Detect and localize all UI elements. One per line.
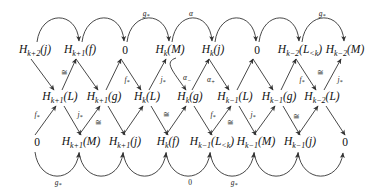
node-argument: (L) <box>326 90 340 102</box>
node-argument: (L) <box>146 90 160 102</box>
node-argument: (g) <box>283 90 296 102</box>
node-top-2: Hk+1(f) <box>64 44 96 58</box>
down-diagonal-arrow <box>194 106 212 135</box>
node-argument: (f) <box>85 43 96 55</box>
node-subscript: k+1 <box>51 96 64 105</box>
diagonal_labels-label: j* <box>337 76 342 85</box>
node-subscript: k−1 <box>226 96 239 105</box>
bottom-arc-arrow <box>298 152 343 176</box>
node-argument: (g) <box>189 90 202 102</box>
node-top-6: 0 <box>254 45 260 57</box>
node-argument: (j) <box>130 135 141 147</box>
top-arc-arrow <box>302 18 344 42</box>
node-base: 0 <box>34 136 40 148</box>
bottom_arc_labels-label: g* <box>55 179 62 188</box>
bottom_arc_labels-label: 0 <box>188 179 192 187</box>
node-middle-1: Hk+1(L) <box>42 91 77 105</box>
diagonal_labels-label: ≅ <box>227 119 234 127</box>
node-bottom-1: 0 <box>34 137 40 149</box>
node-subscript: k−1 <box>270 96 283 105</box>
node-subscript: k+1 <box>70 141 83 150</box>
node-argument: (j) <box>214 43 225 55</box>
node-top-7: Hk−2(L<k) <box>278 44 322 58</box>
diagonal_labels-label: α+ <box>207 76 215 85</box>
bottom_arc_labels-label: g* <box>231 179 238 188</box>
node-argument: (L<k) <box>211 135 234 147</box>
node-subscript: k−2 <box>334 49 347 58</box>
node-bottom-3: Hk+1(j) <box>109 136 141 150</box>
diagonal_labels-label: f* <box>34 111 39 120</box>
up-diagonal-arrow <box>149 59 166 90</box>
node-argument: (g) <box>108 90 121 102</box>
node-middle-4: Hk(g) <box>177 91 202 105</box>
node-base: 0 <box>342 136 348 148</box>
diagonal_labels-label: ≅ <box>317 69 324 77</box>
node-bottom-5: Hk−1(L<k) <box>190 136 234 150</box>
node-argument: (f) <box>169 135 180 147</box>
node-bottom-8: 0 <box>342 137 348 149</box>
bottom-arc-arrow <box>35 152 79 176</box>
node-base: 0 <box>254 44 260 56</box>
bottom-arc-arrow <box>254 152 298 176</box>
node-argument: (M) <box>347 43 364 55</box>
node-subscript: k−1 <box>292 141 305 150</box>
diagonal_labels-label: j* <box>250 111 255 120</box>
diagonal_labels-label: f* <box>210 111 215 120</box>
up-diagonal-arrow <box>237 59 253 90</box>
diagonal_labels-label: f* <box>124 76 129 85</box>
up-diagonal-arrow <box>123 106 143 135</box>
node-argument: (L<k) <box>299 43 322 55</box>
down-diagonal-arrow <box>31 59 54 90</box>
node-top-8: Hk−2(M) <box>326 44 365 58</box>
node-argument: (j) <box>305 135 316 147</box>
node-subscript: k+1 <box>117 141 130 150</box>
node-argument: (M) <box>167 43 184 55</box>
diagonal_labels-label: ≅ <box>61 69 68 77</box>
down-diagonal-arrow <box>253 59 273 90</box>
node-bottom-4: Hk(f) <box>157 136 180 150</box>
diagonal_labels-label: ≅ <box>293 113 300 121</box>
bottom-arc-arrow <box>123 152 166 176</box>
down-diagonal-arrow <box>209 59 229 90</box>
node-subscript: k−2 <box>286 49 299 58</box>
node-middle-7: Hk−2(L) <box>304 91 339 105</box>
node-subscript: k−1 <box>198 141 211 150</box>
node-base: 0 <box>122 44 128 56</box>
diagonal_labels-label: j* <box>160 76 165 85</box>
down-diagonal-arrow <box>326 106 345 135</box>
top-arc-arrow <box>259 18 299 42</box>
node-subscript: k+1 <box>95 96 108 105</box>
node-top-5: Hk(j) <box>202 44 225 58</box>
down-diagonal-arrow <box>76 59 98 90</box>
node-middle-5: Hk−1(L) <box>217 91 252 105</box>
top-arc-arrow <box>82 18 124 42</box>
node-middle-6: Hk−1(g) <box>262 91 297 105</box>
up-diagonal-arrow <box>254 106 275 135</box>
node-bottom-7: Hk−1(j) <box>284 136 316 150</box>
node-argument: (L) <box>64 90 78 102</box>
top_arc_labels-label: g* <box>143 10 150 19</box>
node-bottom-2: Hk+1(M) <box>62 136 101 150</box>
top_arc_labels-label: g* <box>319 10 326 19</box>
diagonal_labels-label: j* <box>77 111 82 120</box>
node-subscript: k−1 <box>245 141 258 150</box>
node-top-4: Hk(M) <box>155 44 184 58</box>
node-argument: (j) <box>40 43 51 55</box>
node-argument: (L) <box>239 90 253 102</box>
diagonal_labels-label: ≅ <box>163 111 170 119</box>
up-diagonal-arrow <box>281 59 296 90</box>
top-arc-arrow <box>37 18 79 42</box>
node-subscript: k+2 <box>27 49 40 58</box>
down-diagonal-arrow <box>108 106 125 135</box>
node-top-1: Hk+2(j) <box>19 44 51 58</box>
up-diagonal-arrow <box>298 106 318 135</box>
braid-diagram: Hk+2(j)Hk+1(f)0Hk(M)Hk(j)0Hk−2(L<k)Hk−2(… <box>0 0 380 194</box>
node-argument: (M) <box>258 135 275 147</box>
node-subscript: k+1 <box>72 49 85 58</box>
diagonal_labels-label: f* <box>299 76 304 85</box>
bottom-arc-arrow <box>79 152 123 176</box>
top-arc-arrow <box>127 18 169 42</box>
node-top-3: 0 <box>122 45 128 57</box>
node-bottom-6: Hk−1(M) <box>237 136 276 150</box>
bottom-arc-arrow <box>166 152 210 176</box>
